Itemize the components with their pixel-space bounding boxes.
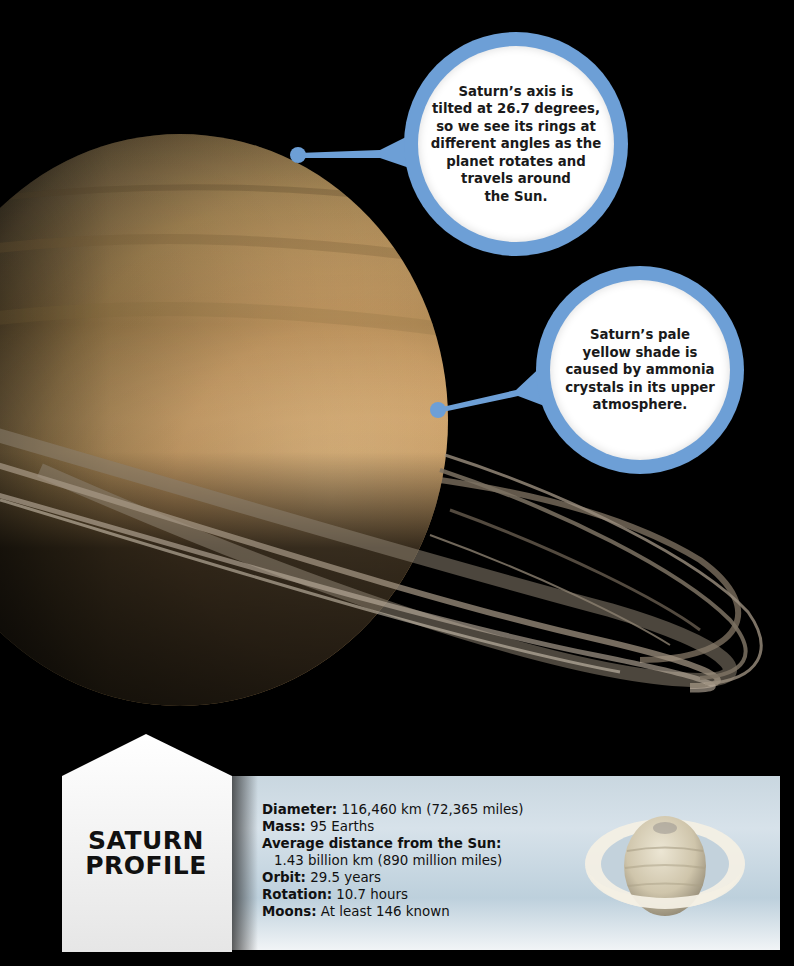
fact-label: Average distance from the Sun: bbox=[262, 836, 501, 851]
fact-orbit: Orbit: 29.5 years bbox=[262, 869, 523, 886]
fact-value: 29.5 years bbox=[306, 870, 381, 885]
profile-facts-panel: Diameter: 116,460 km (72,365 miles) Mass… bbox=[232, 776, 780, 950]
fact-label: Diameter: bbox=[262, 802, 337, 817]
fact-value: 95 Earths bbox=[306, 819, 374, 834]
callout-color: Saturn’s pale yellow shade is caused by … bbox=[536, 266, 744, 474]
saturn-profile-box: SATURN PROFILE Diameter: 116,460 km (72,… bbox=[60, 732, 780, 954]
facts-list: Diameter: 116,460 km (72,365 miles) Mass… bbox=[262, 801, 523, 920]
callout-axis-tilt: Saturn’s axis is tilted at 26.7 degrees,… bbox=[404, 32, 628, 256]
fact-label: Moons: bbox=[262, 904, 317, 919]
fact-value: 116,460 km (72,365 miles) bbox=[337, 802, 523, 817]
profile-title-line2: PROFILE bbox=[60, 853, 232, 878]
fact-rotation: Rotation: 10.7 hours bbox=[262, 886, 523, 903]
callout-color-text: Saturn’s pale yellow shade is caused by … bbox=[565, 326, 715, 414]
profile-title: SATURN PROFILE bbox=[60, 828, 232, 878]
fact-label: Orbit: bbox=[262, 870, 306, 885]
saturn-thumbnail-icon bbox=[572, 796, 758, 932]
callout-axis-tilt-body: Saturn’s axis is tilted at 26.7 degrees,… bbox=[418, 46, 614, 242]
fact-label: Mass: bbox=[262, 819, 306, 834]
fact-distance: Average distance from the Sun: bbox=[262, 835, 523, 852]
fact-value: At least 146 known bbox=[317, 904, 450, 919]
fact-value: 10.7 hours bbox=[332, 887, 408, 902]
callout-axis-tilt-text: Saturn’s axis is tilted at 26.7 degrees,… bbox=[431, 83, 601, 206]
fact-value: 1.43 billion km (890 million miles) bbox=[274, 853, 502, 868]
fact-mass: Mass: 95 Earths bbox=[262, 818, 523, 835]
fact-moons: Moons: At least 146 known bbox=[262, 903, 523, 920]
fact-label: Rotation: bbox=[262, 887, 332, 902]
profile-title-line1: SATURN bbox=[60, 828, 232, 853]
fact-diameter: Diameter: 116,460 km (72,365 miles) bbox=[262, 801, 523, 818]
callout-color-body: Saturn’s pale yellow shade is caused by … bbox=[550, 280, 730, 460]
fact-distance-value: 1.43 billion km (890 million miles) bbox=[262, 852, 523, 869]
